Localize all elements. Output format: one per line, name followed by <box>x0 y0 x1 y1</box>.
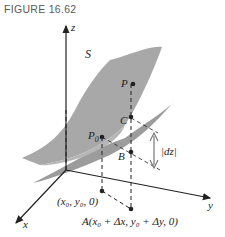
z-axis-label: z <box>70 21 76 33</box>
dz-label: |dz| <box>161 145 177 157</box>
tangent-plane-diagram: z x y S P C P0 B |dz| (x₀, y₀, 0) A(x₀ +… <box>0 0 225 237</box>
point-b-label: B <box>118 150 125 162</box>
y-axis <box>66 170 210 198</box>
surface-label: S <box>85 47 91 61</box>
point-c-label: C <box>120 114 128 126</box>
point-b <box>129 150 134 155</box>
point-a-label: A(x₀ + Δx, y₀ + Δy, 0) <box>81 215 178 228</box>
surface-s <box>22 47 162 165</box>
base-point-label: (x₀, y₀, 0) <box>57 195 99 208</box>
point-p0 <box>100 135 105 140</box>
y-axis-label: y <box>207 199 213 211</box>
point-p-label: P <box>120 77 128 89</box>
x-axis-label: x <box>22 218 28 230</box>
point-p <box>131 82 136 87</box>
point-c <box>129 115 134 120</box>
point-base <box>100 189 105 194</box>
base-dash <box>102 191 131 209</box>
point-a <box>129 207 134 212</box>
